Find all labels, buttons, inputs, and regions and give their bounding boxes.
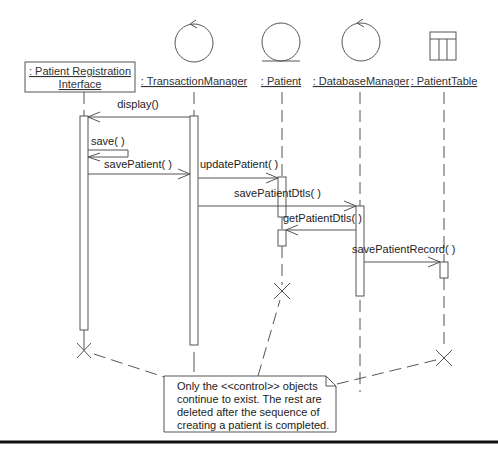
destroy-x-icon bbox=[274, 283, 290, 299]
lifeline-patient-registration-interface bbox=[77, 92, 91, 358]
activation-bar bbox=[80, 116, 88, 330]
object-label: : DatabaseManager bbox=[313, 75, 410, 87]
message-label: savePatientRecord( ) bbox=[352, 243, 455, 255]
note-line: creating a patient is completed. bbox=[177, 419, 329, 431]
message-label: updatePatient( ) bbox=[200, 158, 278, 170]
message-save-patient-dtls[interactable]: savePatientDtls( ) bbox=[198, 187, 356, 211]
activation-bar bbox=[278, 230, 286, 246]
message-label: getPatientDtls( ) bbox=[283, 212, 362, 224]
note-anchors bbox=[94, 300, 436, 384]
control-icon bbox=[175, 20, 213, 62]
note[interactable]: Only the <<control>> objects continue to… bbox=[164, 376, 336, 432]
lifeline-patient-table bbox=[436, 92, 452, 366]
message-label: savePatient( ) bbox=[104, 158, 172, 170]
object-label: : TransactionManager bbox=[141, 75, 248, 87]
object-label-line1: : Patient Registration bbox=[29, 65, 131, 77]
message-display[interactable]: display() bbox=[88, 98, 190, 122]
message-save-patient[interactable]: savePatient( ) bbox=[88, 158, 190, 179]
object-patient[interactable]: : Patient bbox=[261, 23, 301, 87]
object-label-line2: Interface bbox=[59, 78, 102, 90]
control-icon bbox=[342, 19, 380, 61]
activation-bar bbox=[440, 262, 448, 278]
note-line: continue to exist. The rest are bbox=[177, 393, 322, 405]
destroy-x-icon bbox=[436, 350, 452, 366]
message-label: savePatientDtls( ) bbox=[234, 187, 321, 199]
message-update-patient[interactable]: updatePatient( ) bbox=[198, 158, 278, 183]
table-icon bbox=[430, 32, 456, 60]
object-transaction-manager[interactable]: : TransactionManager bbox=[141, 20, 248, 87]
message-get-patient-dtls[interactable]: getPatientDtls( ) bbox=[283, 212, 362, 235]
lifeline-transaction-manager bbox=[190, 92, 198, 372]
object-label: : Patient bbox=[261, 75, 301, 87]
object-patient-table[interactable]: : PatientTable bbox=[411, 32, 478, 87]
lifeline-database-manager bbox=[356, 92, 364, 392]
sequence-diagram: : Patient Registration Interface : Trans… bbox=[0, 0, 498, 452]
message-label: display() bbox=[117, 98, 159, 110]
object-database-manager[interactable]: : DatabaseManager bbox=[313, 19, 410, 87]
note-line: Only the <<control>> objects bbox=[177, 380, 318, 392]
note-line: deleted after the sequence of bbox=[177, 406, 320, 418]
entity-icon bbox=[262, 23, 300, 61]
object-patient-registration-interface[interactable]: : Patient Registration Interface bbox=[25, 62, 135, 92]
object-label: : PatientTable bbox=[411, 75, 478, 87]
message-label: save( ) bbox=[91, 135, 125, 147]
activation-bar bbox=[190, 116, 198, 345]
